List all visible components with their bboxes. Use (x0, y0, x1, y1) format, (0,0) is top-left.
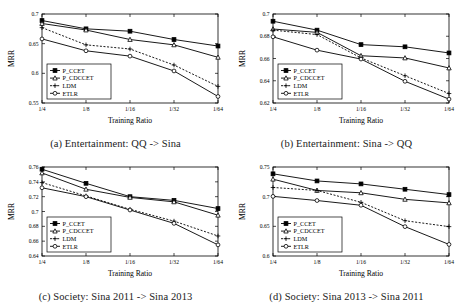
data-point-marker (84, 187, 88, 191)
y-tick-label: 0.74 (29, 179, 39, 185)
data-point-marker (271, 35, 275, 39)
x-tick-label: 1/16 (125, 259, 135, 265)
series-line (273, 29, 449, 68)
data-point-marker (128, 29, 132, 33)
data-point-marker (84, 181, 88, 185)
x-tick-label: 1/4 (269, 106, 276, 112)
legend-marker (53, 69, 57, 73)
y-tick-label: 0.68 (29, 223, 39, 229)
y-tick-label: 0.64 (260, 78, 270, 84)
x-tick-label: 1/32 (169, 259, 179, 265)
series-line (273, 21, 449, 53)
legend-marker (284, 222, 288, 226)
legend-label: ETLR (63, 90, 79, 97)
legend-label: P_CDCCET (63, 227, 94, 234)
x-tick-label: 1/32 (400, 106, 410, 112)
data-point-marker (403, 218, 408, 223)
legend-label: LDM (63, 235, 77, 242)
legend-label: ETLR (63, 243, 79, 250)
data-point-marker (403, 73, 408, 78)
data-point-marker (447, 66, 451, 70)
data-point-marker (172, 221, 176, 225)
legend-label: P_CCET (63, 67, 86, 74)
series-p-ccet (271, 19, 451, 55)
data-point-marker (359, 203, 363, 207)
data-point-marker (359, 57, 363, 61)
y-tick-label: 0.6 (32, 70, 39, 76)
figure-grid: 0.550.60.650.71/41/81/161/321/64Training… (0, 0, 462, 306)
chart-panel-a: 0.550.60.650.71/41/81/161/321/64Training… (0, 0, 231, 153)
y-tick-label: 0.7 (32, 11, 39, 17)
y-tick-label: 0.75 (260, 164, 270, 170)
chart-caption-a: (a) Entertainment: QQ -> Sina (0, 138, 231, 149)
y-tick-label: 0.76 (29, 164, 39, 170)
data-point-marker (128, 37, 132, 41)
x-tick-label: 1/16 (356, 106, 366, 112)
data-point-marker (315, 199, 319, 203)
series-p-ccet (40, 167, 220, 210)
y-tick-label: 0.66 (260, 56, 270, 62)
x-tick-label: 1/32 (169, 106, 179, 112)
data-point-marker (40, 180, 45, 185)
series-p-cdccet (271, 27, 451, 70)
data-point-marker (447, 193, 451, 197)
legend-marker (284, 69, 288, 73)
legend-label: P_CCET (63, 220, 86, 227)
x-axis-title: Training Ratio (108, 116, 152, 125)
y-tick-label: 0.65 (29, 41, 39, 47)
x-tick-label: 1/8 (313, 259, 320, 265)
data-point-marker (403, 45, 407, 49)
y-tick-label: 0.55 (29, 100, 39, 106)
data-point-marker (315, 48, 319, 52)
data-point-marker (403, 197, 407, 201)
legend-label: ETLR (294, 243, 310, 250)
x-tick-label: 1/64 (213, 259, 223, 265)
x-tick-label: 1/4 (38, 259, 45, 265)
legend-label: P_CDCCET (63, 74, 94, 81)
data-point-marker (403, 56, 407, 60)
data-point-marker (403, 187, 407, 191)
legend-label: P_CDCCET (294, 74, 325, 81)
x-tick-label: 1/32 (400, 259, 410, 265)
x-tick-label: 1/64 (444, 259, 454, 265)
x-axis-title: Training Ratio (339, 116, 383, 125)
legend-marker (284, 91, 288, 95)
x-tick-label: 1/16 (125, 106, 135, 112)
x-tick-label: 1/64 (444, 106, 454, 112)
legend-label: LDM (63, 82, 77, 89)
line-chart-b: 0.620.640.660.680.71/41/81/161/321/64Tra… (231, 0, 462, 131)
data-point-marker (315, 179, 319, 183)
y-tick-label: 0.72 (29, 194, 39, 200)
data-point-marker (447, 51, 451, 55)
series-p-ccet (40, 19, 220, 48)
y-tick-label: 0.62 (260, 100, 270, 106)
y-tick-label: 0.7 (32, 209, 39, 215)
x-tick-label: 1/8 (82, 259, 89, 265)
y-axis-title: MRR (238, 49, 247, 67)
data-point-marker (447, 224, 452, 229)
data-point-marker (216, 234, 221, 239)
y-axis-title: MRR (7, 202, 16, 220)
y-tick-label: 0.66 (29, 238, 39, 244)
y-axis-title: MRR (238, 202, 247, 220)
legend-label: LDM (294, 82, 308, 89)
data-point-marker (447, 91, 452, 96)
data-point-marker (271, 19, 275, 23)
legend-marker (53, 244, 57, 248)
data-point-marker (447, 243, 451, 247)
chart-caption-d: (d) Society: Sina 2013 -> Sina 2011 (231, 291, 462, 302)
chart-caption-c: (c) Society: Sina 2011 -> Sina 2013 (0, 291, 231, 302)
legend-marker (284, 244, 288, 248)
data-point-marker (216, 207, 220, 211)
x-tick-label: 1/64 (213, 106, 223, 112)
y-tick-label: 0.7 (263, 11, 270, 17)
data-point-marker (271, 194, 275, 198)
legend-label: P_CDCCET (294, 227, 325, 234)
data-point-marker (359, 43, 363, 47)
data-point-marker (216, 44, 220, 48)
series-line (42, 169, 218, 208)
chart-panel-c: 0.640.660.680.70.720.740.761/41/81/161/3… (0, 153, 231, 306)
x-axis-title: Training Ratio (339, 269, 383, 278)
data-point-marker (216, 95, 220, 99)
data-point-marker (216, 55, 220, 59)
